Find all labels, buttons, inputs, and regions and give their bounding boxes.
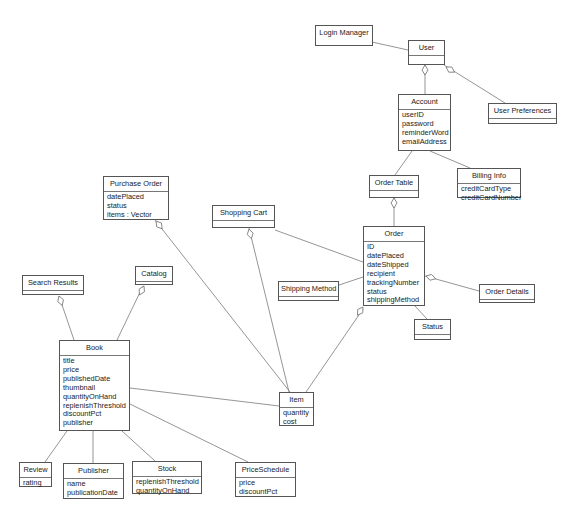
relationship-shopping-cart-order	[275, 230, 363, 262]
class-name: Stock	[133, 462, 201, 477]
class-name: User Preferences	[489, 104, 556, 119]
class-name: User	[409, 41, 444, 56]
class-order[interactable]: OrderIDdatePlaceddateShippedrecipienttra…	[363, 226, 425, 306]
class-attributes: creditCardTypecreditCardNumber	[458, 184, 520, 204]
aggregation-diamond-icon	[426, 274, 436, 280]
relationship-order-item	[306, 309, 363, 392]
relationship-account-billing-info	[430, 151, 470, 168]
class-name: Shipping Method	[279, 282, 338, 297]
class-login-manager[interactable]: Login Manager	[315, 25, 373, 46]
class-name: Account	[399, 95, 450, 110]
class-attributes	[489, 119, 556, 128]
class-name: Order Details	[480, 285, 534, 300]
class-name: Search Results	[23, 276, 83, 291]
class-book[interactable]: BooktitlepricepublishedDatethumbnailquan…	[59, 340, 130, 431]
class-name: Review	[20, 463, 51, 478]
aggregation-diamond-icon	[446, 67, 455, 72]
class-name: Purchase Order	[104, 177, 168, 192]
class-name: Status	[415, 320, 450, 335]
class-stock[interactable]: StockreplenishThresholdquantityOnHand	[132, 461, 202, 494]
class-attributes	[370, 191, 418, 200]
class-attributes	[23, 291, 83, 300]
class-shipping-method[interactable]: Shipping Method	[278, 281, 339, 301]
class-attributes	[409, 56, 444, 65]
class-attributes: rating	[20, 478, 51, 489]
class-attributes: titlepricepublishedDatethumbnailquantity…	[60, 356, 129, 429]
class-item[interactable]: Itemquantitycost	[279, 392, 314, 426]
class-status[interactable]: Status	[414, 319, 451, 340]
class-attributes: IDdatePlaceddateShippedrecipienttracking…	[364, 242, 424, 306]
class-name: Item	[280, 393, 313, 408]
class-name: Login Manager	[316, 26, 372, 40]
class-attributes: quantitycost	[280, 408, 313, 428]
class-search-results[interactable]: Search Results	[22, 275, 84, 295]
relationship-order-shipping-method	[339, 277, 363, 285]
attribute: cost	[283, 418, 311, 427]
attribute: quantityOnHand	[136, 487, 199, 496]
relationship-shopping-cart-item	[249, 228, 289, 392]
class-publisher[interactable]: PublishernamepublicationDate	[63, 463, 124, 499]
attribute: items : Vector	[107, 211, 166, 220]
class-purchase-order[interactable]: Purchase OrderdatePlacedstatusitems : Ve…	[103, 176, 169, 220]
class-name: Catalog	[136, 267, 172, 282]
class-attributes	[136, 282, 172, 291]
attribute: emailAddress	[402, 138, 448, 147]
attribute: creditCardNumber	[461, 194, 518, 203]
relationship-login-manager-user	[372, 42, 408, 50]
relationship-book-item	[130, 388, 279, 406]
attribute: discountPct	[239, 488, 293, 497]
class-account[interactable]: AccountuserIDpasswordreminderWordemailAd…	[398, 94, 451, 151]
uml-class-diagram: Login ManagerUserAccountuserIDpasswordre…	[0, 0, 573, 517]
attribute: shippingMethod	[367, 296, 422, 305]
class-attributes: replenishThresholdquantityOnHand	[133, 477, 201, 497]
attribute: publicationDate	[67, 489, 121, 498]
class-name: Billing Info	[458, 169, 520, 184]
class-attributes: pricediscountPct	[236, 478, 295, 498]
class-order-table[interactable]: Order Table	[369, 175, 419, 198]
aggregation-diamond-icon	[422, 65, 428, 75]
class-attributes: userIDpasswordreminderWordemailAddress	[399, 110, 450, 148]
class-user[interactable]: User	[408, 40, 445, 65]
relationship-order-status	[415, 306, 427, 319]
class-name: PriceSchedule	[236, 463, 295, 478]
class-name: Shopping Cart	[213, 206, 274, 221]
attribute: publisher	[63, 419, 127, 428]
class-order-details[interactable]: Order Details	[479, 284, 535, 303]
aggregation-diamond-icon	[357, 307, 363, 315]
relationship-account-order-table	[395, 151, 412, 175]
class-attributes: datePlacedstatusitems : Vector	[104, 192, 168, 221]
aggregation-diamond-icon	[247, 229, 253, 239]
class-attributes	[480, 300, 534, 309]
class-name: Order Table	[370, 176, 418, 191]
class-review[interactable]: Reviewrating	[19, 462, 52, 487]
class-catalog[interactable]: Catalog	[135, 266, 173, 285]
class-name: Book	[60, 341, 129, 356]
class-price-schedule[interactable]: PriceSchedulepricediscountPct	[235, 462, 296, 497]
relationship-purchase-order-item	[155, 220, 290, 392]
class-attributes	[279, 297, 338, 306]
class-name: Publisher	[64, 464, 123, 479]
class-name: Order	[364, 227, 424, 242]
class-attributes	[415, 335, 450, 344]
class-shopping-cart[interactable]: Shopping Cart	[212, 205, 275, 228]
class-user-preferences[interactable]: User Preferences	[488, 103, 557, 124]
relationship-lines	[0, 0, 573, 517]
class-billing-info[interactable]: Billing InfocreditCardTypecreditCardNumb…	[457, 168, 521, 198]
relationship-book-review	[45, 431, 67, 462]
relationship-book-price-schedule	[130, 404, 248, 462]
aggregation-diamond-icon	[156, 221, 162, 229]
class-attributes	[213, 221, 274, 230]
class-attributes: namepublicationDate	[64, 479, 123, 499]
attribute: rating	[23, 479, 49, 488]
relationship-book-stock	[122, 431, 155, 461]
